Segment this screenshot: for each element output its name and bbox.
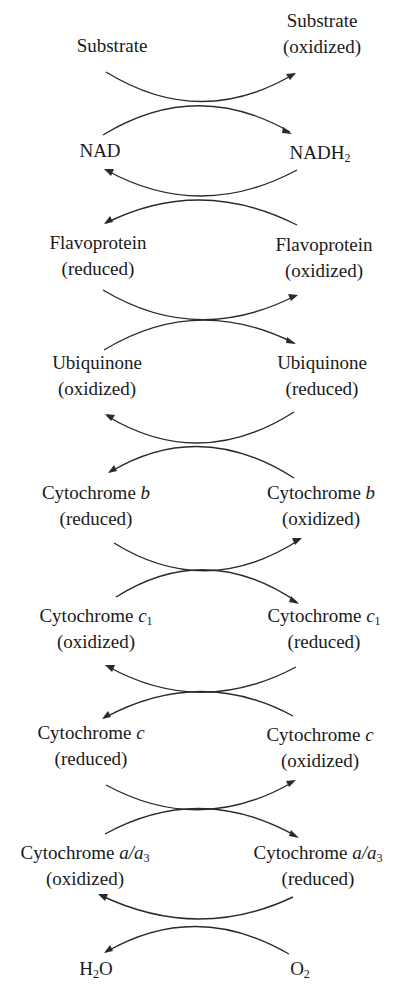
label-flavoprotein-oxidized: Flavoprotein (oxidized) [275, 232, 372, 284]
label-subscript: 1 [147, 614, 153, 628]
arrow-cytochrome-b-reduction [110, 446, 294, 478]
label-oxygen: O2 [290, 956, 310, 982]
label-cytochrome-c1-reduced: Cytochrome c1 (reduced) [267, 603, 380, 655]
label-text: Cytochrome [37, 722, 136, 743]
arrow-cytochrome-c1-reduction [116, 570, 297, 602]
label-text: Cytochrome [254, 842, 353, 863]
label-substrate-oxidized: Substrate (oxidized) [283, 8, 361, 60]
label-text: O [290, 958, 304, 979]
label-cytochrome-b-reduced: Cytochrome b (reduced) [42, 480, 150, 532]
label-italic: c [365, 724, 373, 745]
label-state: (reduced) [37, 746, 144, 772]
label-substrate: Substrate [77, 33, 148, 59]
label-text: Flavoprotein [49, 230, 146, 256]
label-state: (reduced) [277, 376, 367, 402]
label-subscript: 1 [375, 614, 381, 628]
label-italic: c [138, 605, 146, 626]
label-text: Ubiquinone [277, 350, 367, 376]
label-italic: b [141, 482, 151, 503]
label-text: Ubiquinone [52, 350, 142, 376]
label-nad: NAD [79, 138, 120, 164]
arrow-flavoprotein-reduction [106, 200, 297, 225]
arrow-cytochrome-c1-oxidation [107, 666, 296, 692]
label-text: Cytochrome [266, 724, 365, 745]
label-state: (oxidized) [275, 258, 372, 284]
label-state: (oxidized) [266, 748, 373, 774]
label-text: Cytochrome [267, 482, 366, 503]
label-text: Cytochrome [39, 605, 138, 626]
label-state: (oxidized) [39, 629, 152, 655]
label-state: (reduced) [254, 866, 383, 892]
label-state: (oxidized) [21, 866, 150, 892]
label-cytochrome-c-oxidized: Cytochrome c (oxidized) [266, 722, 373, 774]
label-cytochrome-c1-oxidized: Cytochrome c1 (oxidized) [39, 603, 152, 655]
label-text: Substrate [283, 8, 361, 34]
label-nadh2: NADH2 [290, 140, 351, 166]
label-subscript: 2 [344, 151, 350, 165]
label-state: (reduced) [49, 256, 146, 282]
arrow-flavoprotein-oxidation [103, 290, 295, 320]
label-italic: a/a [352, 842, 376, 863]
label-text: NADH [290, 142, 345, 163]
label-italic: b [366, 482, 376, 503]
arrow-cytochrome-a-oxidation [100, 895, 293, 919]
arrow-oxygen-reduction [106, 926, 289, 954]
arrow-nad-reduction [103, 106, 290, 135]
label-text: Flavoprotein [275, 232, 372, 258]
label-cytochrome-c-reduced: Cytochrome c (reduced) [37, 720, 144, 772]
arrow-ubiquinone-oxidation [107, 412, 294, 443]
label-italic: c [366, 605, 374, 626]
arrow-cytochrome-b-oxidation [114, 540, 299, 571]
label-text: Cytochrome [21, 842, 120, 863]
label-text: O [99, 958, 113, 979]
label-cytochrome-a-a3-oxidized: Cytochrome a/a3 (oxidized) [21, 840, 150, 892]
label-state: (reduced) [42, 506, 150, 532]
label-text: NAD [79, 140, 120, 161]
label-cytochrome-a-a3-reduced: Cytochrome a/a3 (reduced) [254, 840, 383, 892]
arrow-cytochrome-c-oxidation [106, 782, 293, 810]
label-text: Substrate [77, 35, 148, 56]
arrow-nadh-oxidation [106, 170, 297, 196]
label-subscript: 3 [143, 851, 149, 865]
arrow-cytochrome-c-reduction [104, 691, 293, 718]
label-water: H2O [79, 956, 112, 982]
label-text: Cytochrome [42, 482, 141, 503]
label-state: (oxidized) [283, 34, 361, 60]
label-ubiquinone-reduced: Ubiquinone (reduced) [277, 350, 367, 402]
arrow-ubiquinone-reduction [104, 320, 294, 350]
label-subscript: 2 [304, 967, 310, 981]
label-text: Cytochrome [267, 605, 366, 626]
arrow-substrate-oxidation [106, 72, 294, 102]
label-text: H [79, 958, 93, 979]
label-ubiquinone-oxidized: Ubiquinone (oxidized) [52, 350, 142, 402]
label-flavoprotein-reduced: Flavoprotein (reduced) [49, 230, 146, 282]
arrow-cytochrome-a-reduction [105, 808, 296, 836]
label-state: (oxidized) [267, 506, 375, 532]
label-italic: a/a [119, 842, 143, 863]
label-state: (reduced) [267, 629, 380, 655]
label-italic: c [136, 722, 144, 743]
label-state: (oxidized) [52, 376, 142, 402]
label-subscript: 3 [376, 851, 382, 865]
label-cytochrome-b-oxidized: Cytochrome b (oxidized) [267, 480, 375, 532]
